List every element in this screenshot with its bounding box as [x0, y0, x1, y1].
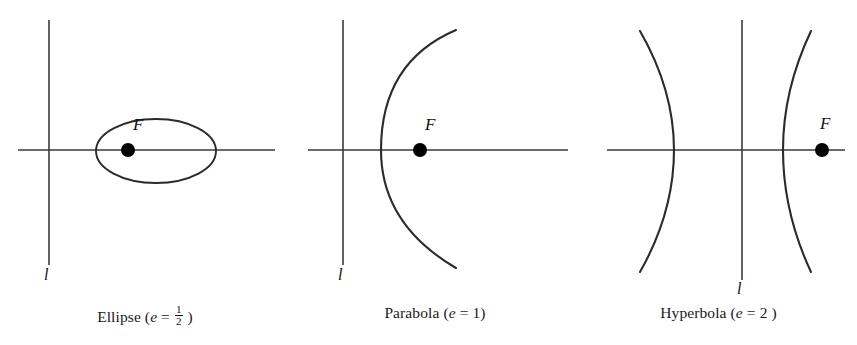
- focus-point: [413, 143, 427, 157]
- conic-sections-figure: F l Ellipse (e = 12 ) F l Parabola (e = …: [0, 0, 857, 345]
- panel-parabola: F l Parabola (e = 1): [290, 0, 580, 345]
- focus-label: F: [820, 114, 830, 134]
- focus-label: F: [425, 115, 435, 135]
- ellipse-drawing: [0, 0, 290, 300]
- caption-equals: =: [161, 308, 170, 325]
- caption-parabola: Parabola (e = 1): [290, 304, 580, 322]
- caption-ellipse: Ellipse (e = 12 ): [0, 304, 290, 328]
- hyperbola-drawing: [580, 0, 857, 300]
- caption-variable: e: [736, 304, 743, 321]
- caption-close-paren: ): [771, 304, 776, 321]
- caption-equals: =: [747, 304, 756, 321]
- fraction-denominator: 2: [175, 316, 183, 327]
- ellipse-curve: [96, 119, 216, 183]
- caption-name: Ellipse: [97, 308, 141, 325]
- directrix-label: l: [737, 280, 741, 298]
- caption-hyperbola: Hyperbola (e = 2 ): [580, 304, 857, 322]
- focus-point: [121, 143, 135, 157]
- parabola-drawing: [290, 0, 580, 300]
- panel-hyperbola: F l Hyperbola (e = 2 ): [580, 0, 857, 345]
- focus-point: [815, 143, 829, 157]
- caption-close-paren: ): [480, 304, 485, 321]
- directrix-label: l: [44, 266, 48, 284]
- caption-close-paren: ): [188, 308, 193, 325]
- directrix-label: l: [338, 266, 342, 284]
- hyperbola-left-branch: [640, 31, 674, 272]
- caption-variable: e: [449, 304, 456, 321]
- caption-name: Hyperbola: [660, 304, 726, 321]
- caption-name: Parabola: [384, 304, 439, 321]
- hyperbola-right-branch: [783, 31, 811, 272]
- focus-label: F: [133, 115, 143, 135]
- caption-fraction: 12: [175, 304, 183, 328]
- panel-ellipse: F l Ellipse (e = 12 ): [0, 0, 290, 345]
